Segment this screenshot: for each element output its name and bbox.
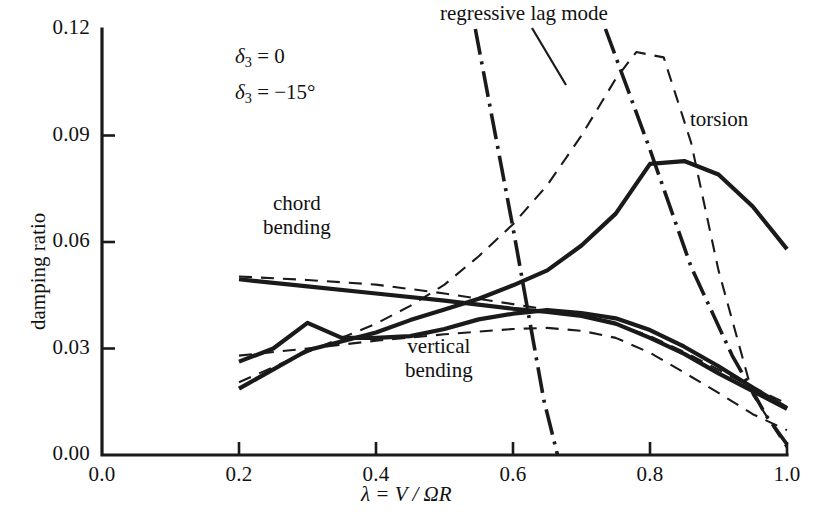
legend-1-subscript: 3 (245, 90, 252, 106)
legend-0-value: = 0 (257, 44, 285, 68)
x-axis-tick-label: 0.2 (215, 462, 263, 487)
legend-entry-1-label: δ3 = −15° (235, 80, 316, 107)
legend-0-subscript: 3 (245, 54, 252, 70)
annotation-vertical-bending-line2: bending (405, 359, 473, 383)
legend-1-symbol: δ (235, 80, 245, 104)
x-axis-tick-label: 0.4 (352, 462, 400, 487)
series-regressive-lag-mode-dash-dot (605, 29, 787, 444)
series-vertical-bending-solid (239, 310, 787, 408)
annotation-leader-regressive-lag-mode (532, 28, 566, 85)
x-axis-tick-label: 1.0 (763, 462, 811, 487)
x-axis-tick-label: 0.0 (78, 462, 126, 487)
x-axis-tick-label: 0.6 (489, 462, 537, 487)
annotation-chord-bending-line2: bending (263, 216, 331, 240)
y-axis-tick-label: 0.03 (0, 335, 90, 360)
legend-1-value: = −15° (257, 80, 315, 104)
plot-canvas (0, 0, 815, 529)
series-chord-bending-solid (239, 279, 787, 409)
y-axis-tick-label: 0.06 (0, 228, 90, 253)
legend-0-symbol: δ (235, 44, 245, 68)
series-chord-bending-dashed (239, 276, 787, 403)
y-axis-tick-label: 0.09 (0, 122, 90, 147)
annotation-vertical-bending: vertical bending (405, 335, 473, 382)
annotation-torsion: torsion (690, 108, 748, 132)
annotation-chord-bending: chord bending (263, 192, 331, 239)
series-regressive-lag-mode-dash-dot (475, 29, 557, 455)
x-axis-tick-label: 0.8 (626, 462, 674, 487)
annotation-regressive-lag-mode: regressive lag mode (440, 2, 608, 26)
chart-figure: damping ratio λ = V / ΩR δ3 = 0 δ3 = −15… (0, 0, 815, 529)
y-axis-tick-label: 0.12 (0, 15, 90, 40)
annotation-chord-bending-line1: chord (263, 192, 331, 216)
annotation-vertical-bending-line1: vertical (405, 335, 473, 359)
legend-entry-0-label: δ3 = 0 (235, 44, 285, 71)
y-axis-tick-label: 0.00 (0, 441, 90, 466)
series-vertical-bending-dashed (239, 328, 787, 430)
